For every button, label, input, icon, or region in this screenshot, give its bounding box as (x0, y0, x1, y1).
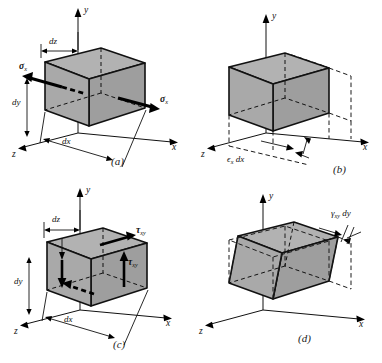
dim-label-dx-a: dx (62, 137, 71, 146)
dim-label-dz-a: dz (49, 37, 57, 46)
axis-label-x-d: x (359, 320, 363, 330)
panel-a-drawing (0, 0, 191, 181)
tau-xy-label-right-c: τxy (128, 258, 138, 268)
dim-label-dx-c: dx (64, 315, 73, 324)
dim-dz-a (41, 32, 78, 58)
dim-epsilon-x-dx-b (261, 137, 311, 158)
axis-label-x-c: x (166, 319, 170, 329)
tau-xy-label-top-c: τxy (136, 226, 146, 236)
axis-label-z-a: z (12, 150, 16, 160)
panel-caption-a: (a) (111, 155, 124, 167)
dim-label-dy-a: dy (12, 98, 21, 107)
panel-c-drawing (0, 182, 191, 363)
x-axis-c (80, 310, 172, 321)
panel-d-drawing (191, 182, 382, 363)
panel-b: y x z ϵx dx (b) (191, 0, 382, 181)
axis-label-x-a: x (172, 143, 176, 153)
axis-label-y-c: y (86, 186, 90, 196)
panel-caption-c: (c) (113, 338, 125, 350)
dim-dz-c (44, 210, 80, 238)
x-axis-a (78, 133, 178, 145)
dim-label-dy-c: dy (14, 277, 23, 286)
axis-label-y-a: y (84, 6, 88, 16)
panel-c: y x z dz dy dx τxy τxy (c) (0, 182, 191, 363)
axis-label-x-b: x (363, 143, 367, 153)
stress-strain-figure: y x z dz dy dx σx σx (a) (0, 0, 382, 363)
axis-label-z-b: z (201, 150, 205, 160)
axis-label-z-d: z (199, 327, 203, 337)
x-axis-b (266, 133, 369, 145)
axis-label-y-b: y (272, 12, 276, 22)
dim-dy-a (24, 78, 29, 137)
sigma-x-label-right-a: σx (160, 95, 168, 105)
strain-label-epsilon-x-dx-b: ϵx dx (227, 155, 244, 164)
sigma-x-label-left-a: σx (19, 62, 27, 72)
x-axis-d (263, 310, 365, 322)
z-axis-d (205, 310, 263, 328)
strain-label-gamma-xy-dy-d: γxy dy (331, 209, 351, 218)
panel-caption-b: (b) (333, 163, 346, 175)
panel-b-drawing (191, 0, 382, 181)
panel-caption-d: (d) (298, 332, 311, 344)
axis-label-z-c: z (14, 327, 18, 337)
panel-a: y x z dz dy dx σx σx (a) (0, 0, 191, 181)
dim-label-dz-c: dz (52, 215, 60, 224)
dim-dy-c (26, 257, 31, 315)
panel-d: y x z γxy dy (d) (191, 182, 382, 363)
axis-label-y-d: y (269, 192, 273, 202)
z-axis-b (207, 133, 266, 151)
